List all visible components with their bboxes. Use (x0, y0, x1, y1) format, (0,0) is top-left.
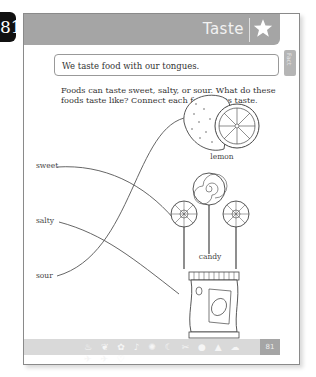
taste-label-sweet: sweet (36, 161, 58, 170)
food-label-candy: candy (170, 252, 250, 261)
taste-label-sour: sour (36, 271, 53, 280)
food-label-lemon: lemon (182, 152, 262, 161)
matching-artwork (24, 14, 299, 364)
chips-bag-icon (189, 272, 239, 338)
taste-label-salty: salty (36, 216, 54, 225)
footer-page-number: 81 (260, 339, 280, 355)
lemon-icon (184, 95, 259, 150)
page-footer: ♨ ❦ ✿ ♪ ✺ ☾ ✂ ● ▲ ☁ ✈ ✈ ♡ 81 (24, 339, 280, 355)
line-salty-chips (59, 222, 179, 294)
line-sweet-candy (57, 167, 174, 219)
worksheet-page: Taste We taste food with our tongues. Fa… (23, 13, 300, 365)
footer-decoration-icons: ♨ ❦ ✿ ♪ ✺ ☾ ✂ ● ▲ ☁ ✈ ✈ ♡ (84, 341, 244, 353)
page-number-badge: 81 (0, 12, 16, 42)
